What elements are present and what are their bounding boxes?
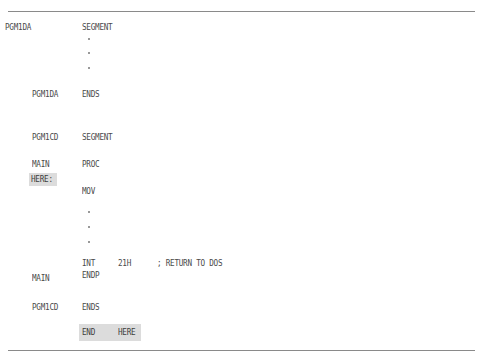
int-comment: ; RETURN TO DOS (157, 258, 222, 269)
int-operand: 21H (118, 258, 131, 269)
ellipsis-dot (88, 52, 90, 54)
mov-instruction: MOV (82, 186, 95, 197)
endp-directive: ENDP (82, 270, 99, 281)
endp-label: MAIN (32, 273, 49, 284)
end-directive: END (82, 327, 95, 338)
ellipsis-dot (88, 226, 90, 228)
data-segment-directive: SEGMENT (82, 22, 112, 33)
data-segment-label: PGM1DA (5, 22, 31, 33)
code-segment-end-label: PGM1CD (32, 302, 58, 313)
ellipsis-dot (88, 211, 90, 213)
entry-label: HERE: (31, 174, 53, 185)
proc-label: MAIN (32, 159, 49, 170)
int-instruction: INT (82, 258, 95, 269)
data-segment-end-label: PGM1DA (32, 89, 58, 100)
top-rule (8, 11, 475, 12)
ellipsis-dot (88, 38, 90, 40)
code-segment-end-directive: ENDS (82, 302, 99, 313)
ellipsis-dot (88, 241, 90, 243)
data-segment-end-directive: ENDS (82, 89, 99, 100)
bottom-rule (8, 350, 475, 351)
ellipsis-dot (88, 67, 90, 69)
code-segment-directive: SEGMENT (82, 132, 112, 143)
end-operand: HERE (118, 327, 135, 338)
code-segment-label: PGM1CD (32, 132, 58, 143)
proc-directive: PROC (82, 159, 99, 170)
